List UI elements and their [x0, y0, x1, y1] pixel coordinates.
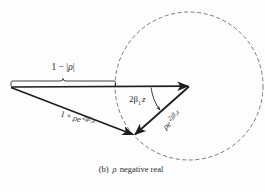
unit-phasor-arrow	[11, 86, 188, 87]
phasor-diagram: 1 − |ρ| 2β1z ρe2jβ₁z 1 + ρe2jβ₁z (b)ρneg…	[0, 0, 265, 192]
brace	[11, 79, 116, 87]
figure-caption: (b)ρnegative real	[99, 164, 164, 174]
angle-label: 2β1z	[129, 94, 146, 106]
brace-label: 1 − |ρ|	[51, 62, 74, 72]
reflection-label: ρe2jβ₁z	[159, 108, 184, 133]
angle-arc	[151, 88, 160, 111]
sum-label: 1 + ρe2jβ₁z	[59, 106, 97, 128]
